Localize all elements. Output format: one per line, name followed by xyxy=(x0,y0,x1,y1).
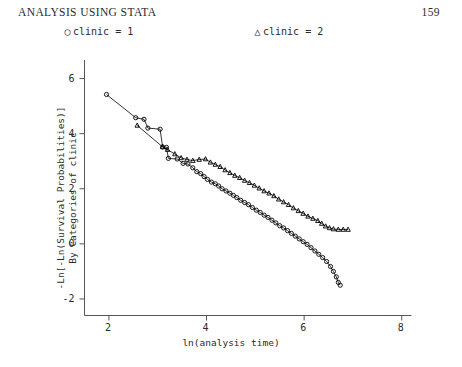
y-tick-label: 0 xyxy=(69,238,75,249)
x-axis-title: ln(analysis time) xyxy=(0,337,462,348)
triangle-marker xyxy=(135,123,139,127)
x-tick-label: 6 xyxy=(300,322,306,333)
y-tick-label: 4 xyxy=(69,128,75,139)
y-axis-title: -Ln[-Ln(Survival Probabilities)] By Cate… xyxy=(55,68,79,328)
y-tick-label: 2 xyxy=(69,183,75,194)
x-tick-label: 4 xyxy=(203,322,209,333)
page-root: ANALYSIS USING STATA 159 ○clinic = 1 △cl… xyxy=(0,0,462,367)
y-tick-label: -2 xyxy=(63,293,75,304)
y-axis-title-line1: -Ln[-Ln(Survival Probabilities)] xyxy=(55,68,67,328)
axes xyxy=(80,60,412,321)
y-tick-label: 6 xyxy=(69,73,75,84)
x-tick-label: 2 xyxy=(105,322,111,333)
series-line-2 xyxy=(137,125,348,229)
y-axis-title-line2: By Categories of clinic xyxy=(67,68,79,328)
x-tick-label: 8 xyxy=(398,322,404,333)
data-series xyxy=(104,92,350,287)
series-line-1 xyxy=(107,95,341,286)
